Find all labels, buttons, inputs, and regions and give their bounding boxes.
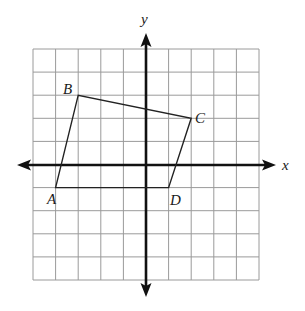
vertex-label-b: B bbox=[63, 81, 72, 97]
axes: x y bbox=[17, 11, 289, 297]
coordinate-plane: x y A B C D bbox=[0, 0, 305, 311]
x-axis-label: x bbox=[281, 157, 289, 173]
vertex-label-d: D bbox=[169, 192, 181, 208]
vertex-label-a: A bbox=[46, 191, 57, 207]
vertex-label-c: C bbox=[195, 110, 206, 126]
y-axis-label: y bbox=[139, 11, 148, 27]
